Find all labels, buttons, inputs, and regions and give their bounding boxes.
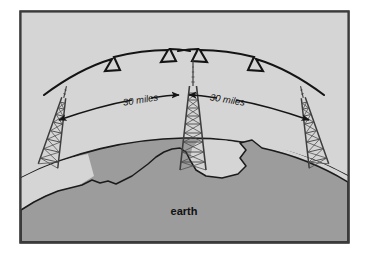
radio-line-of-sight-diagram: 30 miles 30 miles earth xyxy=(0,0,368,258)
diagram-canvas: 30 miles 30 miles earth xyxy=(0,0,368,258)
earth-label: earth xyxy=(171,205,198,217)
